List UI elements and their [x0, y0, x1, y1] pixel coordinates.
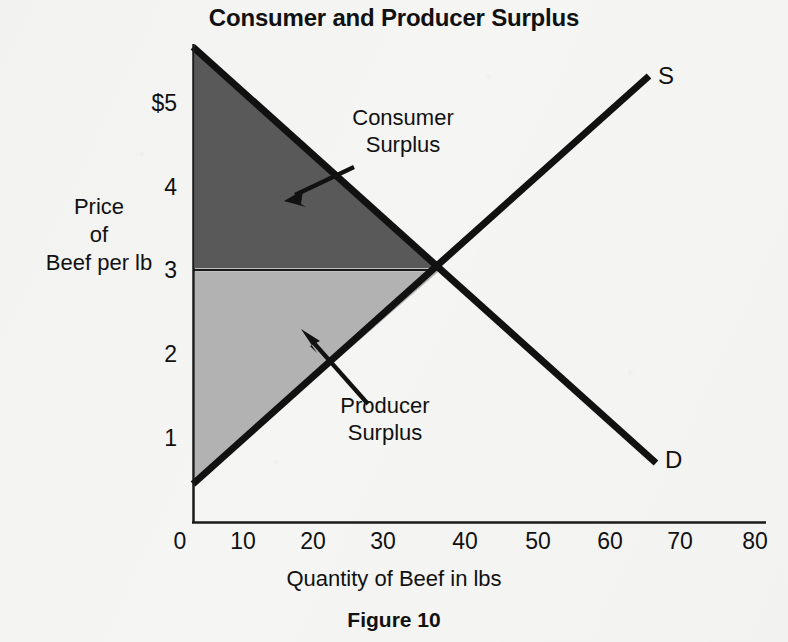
x-axis-title: Quantity of Beef in lbs — [0, 566, 788, 592]
y-tick-label-5: $5 — [121, 90, 177, 117]
y-tick-label-3: 3 — [121, 257, 177, 284]
demand-curve-label: D — [665, 446, 682, 474]
supply-curve-label: S — [658, 62, 674, 90]
consumer-surplus-annotation: Consumer Surplus — [318, 104, 488, 158]
x-tick-label-60: 60 — [585, 528, 635, 555]
x-tick-label-80: 80 — [730, 528, 780, 555]
figure-container: Consumer and Producer Surplus Price of B… — [0, 0, 788, 642]
producer-surplus-annotation: Producer Surplus — [300, 392, 470, 446]
x-tick-label-20: 20 — [288, 528, 338, 555]
x-tick-label-30: 30 — [358, 528, 408, 555]
y-tick-label-2: 2 — [121, 341, 177, 368]
x-tick-label-0: 0 — [155, 528, 205, 555]
y-tick-label-4: 4 — [121, 174, 177, 201]
y-axis-title-line2: of — [24, 221, 174, 249]
y-tick-label-1: 1 — [121, 425, 177, 452]
figure-caption: Figure 10 — [0, 608, 788, 632]
x-tick-label-40: 40 — [440, 528, 490, 555]
x-tick-label-70: 70 — [655, 528, 705, 555]
x-tick-label-10: 10 — [218, 528, 268, 555]
x-tick-label-50: 50 — [513, 528, 563, 555]
